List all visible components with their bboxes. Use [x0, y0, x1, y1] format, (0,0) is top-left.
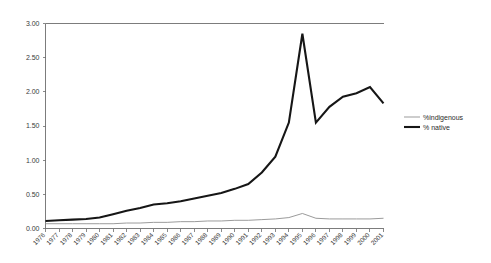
x-tick-label: 1996: [302, 231, 317, 246]
plot-frame: [46, 24, 384, 229]
x-tick-label: 2001: [369, 231, 384, 246]
x-tick-marks: [46, 229, 384, 233]
x-tick-label: 1978: [58, 231, 73, 246]
x-tick-labels: 1976197719781979198019811982198319841985…: [31, 231, 384, 246]
x-tick-label: 1981: [99, 231, 114, 246]
x-tick-label: 1991: [234, 231, 249, 246]
y-tick-label: 1.00: [26, 157, 40, 164]
x-tick-label: 1984: [139, 231, 154, 246]
x-tick-label: 1977: [45, 231, 60, 246]
chart-legend: %indigenous% native: [404, 114, 464, 131]
axis-frame: [46, 24, 384, 229]
y-tick-label: 2.50: [26, 54, 40, 61]
x-tick-label: 2000: [356, 231, 371, 246]
chart-container: 0.000.501.001.502.002.503.00 19761977197…: [0, 0, 491, 263]
x-tick-label: 1980: [85, 231, 100, 246]
x-tick-label: 1983: [126, 231, 141, 246]
x-tick-label: 1985: [153, 231, 168, 246]
y-tick-label: 3.00: [26, 20, 40, 27]
x-tick-label: 1998: [329, 231, 344, 246]
x-tick-label: 1993: [261, 231, 276, 246]
x-tick-label: 1988: [193, 231, 208, 246]
legend-label: %indigenous: [423, 114, 464, 122]
x-tick-label: 1987: [180, 231, 195, 246]
y-tick-labels: 0.000.501.001.502.002.503.00: [26, 20, 40, 232]
data-series-group: [46, 34, 384, 224]
y-tick-label: 0.50: [26, 191, 40, 198]
x-tick-label: 1979: [72, 231, 87, 246]
x-tick-label: 1999: [342, 231, 357, 246]
x-tick-label: 1992: [248, 231, 263, 246]
x-tick-label: 1989: [207, 231, 222, 246]
y-tick-label: 1.50: [26, 122, 40, 129]
series-line: [46, 34, 384, 221]
y-tick-label: 0.00: [26, 225, 40, 232]
x-tick-label: 1995: [288, 231, 303, 246]
x-tick-label: 1994: [275, 231, 290, 246]
line-chart: 0.000.501.001.502.002.503.00 19761977197…: [0, 0, 491, 263]
x-tick-label: 1997: [315, 231, 330, 246]
x-tick-label: 1986: [166, 231, 181, 246]
x-tick-label: 1982: [112, 231, 127, 246]
x-tick-label: 1990: [220, 231, 235, 246]
x-tick-label: 1976: [31, 231, 46, 246]
y-tick-label: 2.00: [26, 88, 40, 95]
legend-label: % native: [423, 124, 450, 131]
